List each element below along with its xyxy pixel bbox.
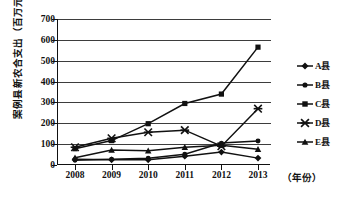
legend-item-label: A县 xyxy=(315,59,331,72)
data-point-marker xyxy=(255,155,262,162)
data-point-marker xyxy=(109,157,114,162)
series-line xyxy=(75,47,258,149)
data-point-marker xyxy=(219,91,224,96)
data-point-marker xyxy=(255,45,260,50)
cross-icon xyxy=(296,117,314,129)
legend-item-label: C县 xyxy=(315,97,331,110)
legend-item[interactable]: D县 xyxy=(296,113,341,132)
legend-item-label: E县 xyxy=(315,135,330,148)
data-series-layer xyxy=(0,0,341,203)
data-point-marker xyxy=(256,139,261,144)
square-icon xyxy=(296,98,314,110)
data-point-marker xyxy=(254,105,263,113)
legend-item-label: B县 xyxy=(315,78,330,91)
data-point-marker xyxy=(182,152,187,157)
data-point-marker xyxy=(146,121,151,126)
legend-item[interactable]: B县 xyxy=(296,75,341,94)
legend-item[interactable]: A县 xyxy=(296,56,341,75)
data-point-marker xyxy=(180,126,189,134)
chart-legend: A县B县C县D县E县 xyxy=(296,56,341,151)
triangle-icon xyxy=(296,136,314,148)
diamond-icon xyxy=(296,60,314,72)
legend-item[interactable]: C县 xyxy=(296,94,341,113)
circle-icon xyxy=(296,79,314,91)
data-point-marker xyxy=(146,156,151,161)
data-point-marker xyxy=(144,128,153,136)
legend-item-label: D县 xyxy=(315,116,331,129)
data-series xyxy=(73,139,261,163)
chart-figure: 案例县新农合支出（百万元） 0100200300400500600700 200… xyxy=(0,0,341,203)
legend-item[interactable]: E县 xyxy=(296,132,341,151)
series-line xyxy=(75,109,258,148)
data-point-marker xyxy=(182,101,187,106)
data-series xyxy=(71,105,263,151)
